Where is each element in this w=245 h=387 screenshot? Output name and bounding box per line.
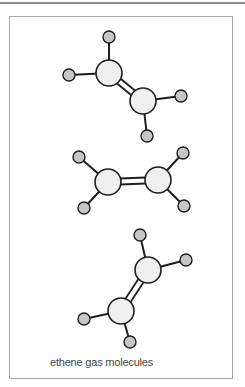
hydrogen-atom xyxy=(78,202,90,214)
hydrogen-atom xyxy=(134,229,146,241)
molecule-diagram xyxy=(0,0,245,387)
carbon-atom xyxy=(130,88,156,114)
hydrogen-atom xyxy=(63,69,75,81)
hydrogen-atom xyxy=(177,147,189,159)
ethene-3-molecule xyxy=(78,229,192,348)
hydrogen-atom xyxy=(178,200,190,212)
carbon-atom xyxy=(108,298,134,324)
hydrogen-atom xyxy=(103,31,115,43)
ethene-2-molecule xyxy=(73,147,190,214)
hydrogen-atom xyxy=(175,90,187,102)
carbon-atom xyxy=(96,60,122,86)
ethene-1-molecule xyxy=(63,31,187,142)
hydrogen-atom xyxy=(78,313,90,325)
hydrogen-atom xyxy=(141,130,153,142)
carbon-atom xyxy=(95,169,121,195)
carbon-atom xyxy=(135,257,161,283)
hydrogen-atom xyxy=(180,254,192,266)
hydrogen-atom xyxy=(124,336,136,348)
carbon-atom xyxy=(145,167,171,193)
hydrogen-atom xyxy=(73,151,85,163)
figure-caption: ethene gas molecules xyxy=(50,356,153,368)
